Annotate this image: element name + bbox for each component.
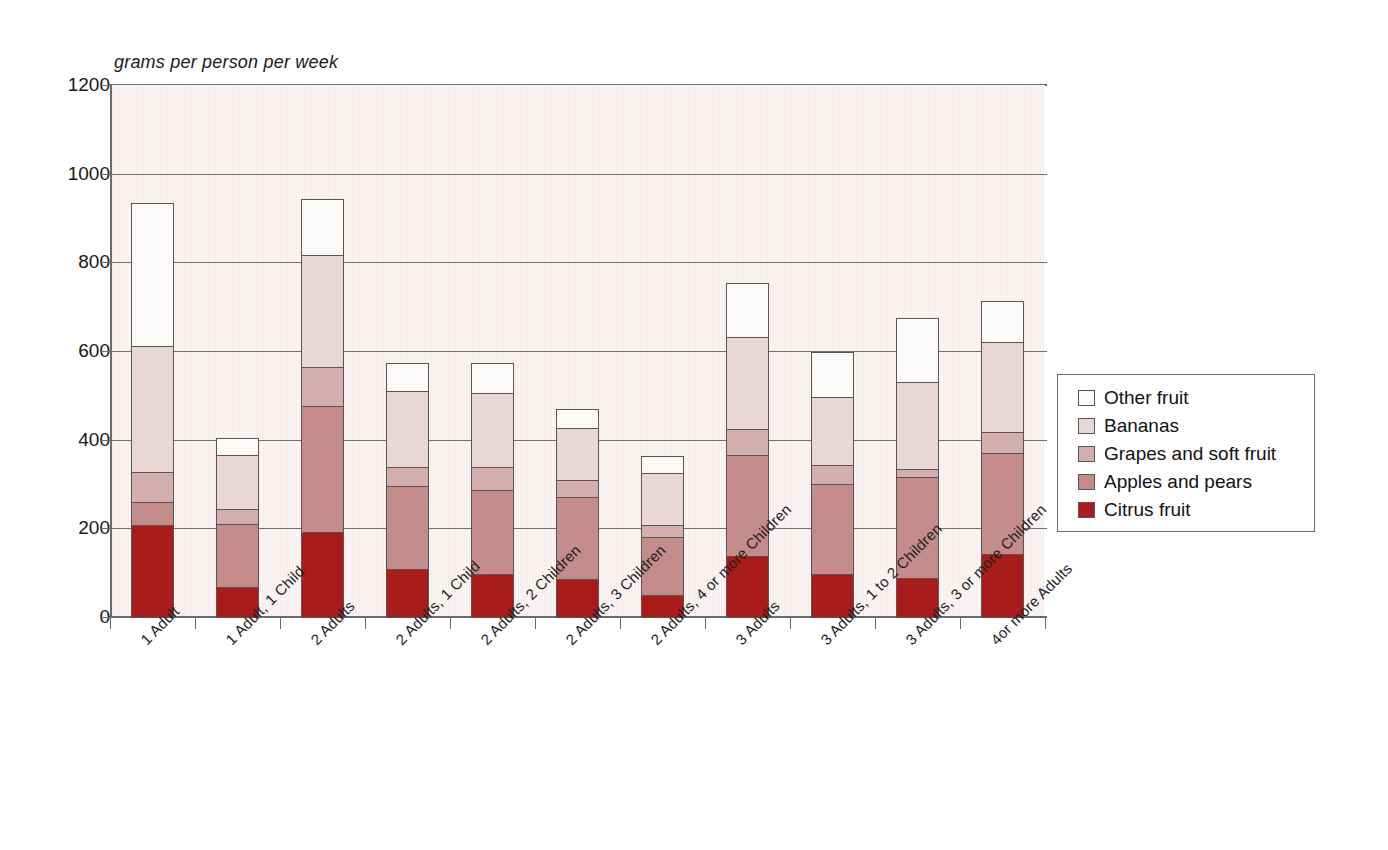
bar-segment-1[interactable] [301, 406, 344, 532]
bar-segment-4[interactable] [386, 363, 429, 392]
bar-0[interactable] [131, 203, 174, 617]
bar-segment-4[interactable] [216, 438, 259, 456]
bar-segment-4[interactable] [726, 283, 769, 338]
bar-segment-1[interactable] [471, 490, 514, 574]
bar-group [110, 85, 1045, 617]
bar-segment-3[interactable] [981, 342, 1024, 433]
x-tick-9 [875, 617, 876, 629]
y-tick-mark-1200 [100, 85, 110, 86]
x-tick-5 [535, 617, 536, 629]
legend: Other fruitBananasGrapes and soft fruitA… [1057, 374, 1315, 532]
bar-segment-3[interactable] [216, 455, 259, 510]
y-tick-mark-400 [100, 440, 110, 441]
x-tick-0 [110, 617, 111, 629]
legend-label: Other fruit [1104, 387, 1188, 409]
bar-segment-4[interactable] [301, 199, 344, 257]
bar-segment-4[interactable] [981, 301, 1024, 343]
bar-segment-4[interactable] [556, 409, 599, 429]
legend-item-4[interactable]: Citrus fruit [1078, 496, 1314, 524]
legend-label: Citrus fruit [1104, 499, 1191, 521]
bar-segment-4[interactable] [811, 352, 854, 399]
legend-item-3[interactable]: Apples and pears [1078, 468, 1314, 496]
bar-5[interactable] [556, 409, 599, 617]
y-tick-mark-0 [100, 617, 110, 618]
y-axis-title: grams per person per week [114, 52, 338, 73]
legend-item-1[interactable]: Bananas [1078, 412, 1314, 440]
legend-swatch-icon [1078, 474, 1095, 490]
legend-swatch-icon [1078, 446, 1095, 462]
bar-segment-3[interactable] [386, 391, 429, 469]
bar-segment-2[interactable] [556, 480, 599, 498]
x-tick-6 [620, 617, 621, 629]
legend-label: Bananas [1104, 415, 1179, 437]
bar-segment-4[interactable] [641, 456, 684, 474]
bar-segment-3[interactable] [131, 346, 174, 472]
x-tick-10 [960, 617, 961, 629]
bar-segment-2[interactable] [301, 367, 344, 407]
bar-segment-2[interactable] [726, 429, 769, 456]
bar-segment-2[interactable] [981, 432, 1024, 454]
chart-container: grams per person per week 12001000800600… [0, 0, 1388, 850]
bar-4[interactable] [471, 363, 514, 617]
bar-segment-4[interactable] [471, 363, 514, 394]
bar-2[interactable] [301, 199, 344, 617]
bar-segment-2[interactable] [811, 465, 854, 485]
bar-segment-4[interactable] [131, 203, 174, 347]
y-tick-mark-200 [100, 528, 110, 529]
bar-segment-2[interactable] [896, 469, 939, 478]
bar-segment-1[interactable] [811, 484, 854, 575]
bar-segment-1[interactable] [131, 502, 174, 526]
y-tick-mark-800 [100, 262, 110, 263]
legend-rows: Other fruitBananasGrapes and soft fruitA… [1078, 384, 1314, 524]
x-tick-11 [1045, 617, 1046, 629]
x-tick-4 [450, 617, 451, 629]
x-tick-3 [365, 617, 366, 629]
bar-segment-3[interactable] [556, 428, 599, 481]
bar-segment-4[interactable] [896, 318, 939, 382]
legend-item-2[interactable]: Grapes and soft fruit [1078, 440, 1314, 468]
bar-segment-2[interactable] [131, 472, 174, 503]
bar-segment-2[interactable] [471, 467, 514, 491]
x-tick-1 [195, 617, 196, 629]
legend-item-0[interactable]: Other fruit [1078, 384, 1314, 412]
bar-segment-2[interactable] [386, 467, 429, 487]
bar-segment-1[interactable] [216, 524, 259, 588]
legend-label: Grapes and soft fruit [1104, 443, 1276, 465]
bar-6[interactable] [641, 456, 684, 617]
legend-label: Apples and pears [1104, 471, 1252, 493]
bar-segment-2[interactable] [641, 525, 684, 538]
y-tick-mark-600 [100, 351, 110, 352]
legend-swatch-icon [1078, 418, 1095, 434]
bar-segment-3[interactable] [641, 473, 684, 526]
bar-3[interactable] [386, 363, 429, 617]
bar-segment-3[interactable] [811, 397, 854, 466]
bar-segment-2[interactable] [216, 509, 259, 525]
legend-swatch-icon [1078, 390, 1095, 406]
x-tick-2 [280, 617, 281, 629]
y-tick-mark-1000 [100, 174, 110, 175]
bar-segment-1[interactable] [386, 486, 429, 570]
bar-segment-3[interactable] [471, 393, 514, 468]
y-axis: 120010008006004002000 [35, 0, 110, 850]
bar-segment-3[interactable] [301, 255, 344, 368]
bar-1[interactable] [216, 438, 259, 617]
x-tick-7 [705, 617, 706, 629]
bar-8[interactable] [811, 352, 854, 617]
legend-swatch-icon [1078, 502, 1095, 518]
bar-segment-3[interactable] [726, 337, 769, 430]
x-tick-8 [790, 617, 791, 629]
bar-segment-3[interactable] [896, 382, 939, 471]
